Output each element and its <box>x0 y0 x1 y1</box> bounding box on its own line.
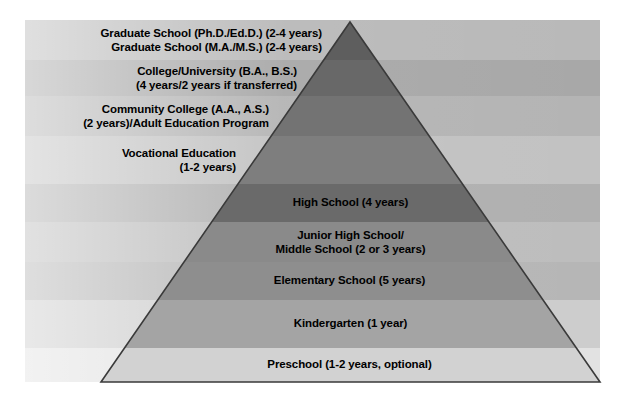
education-pyramid-diagram <box>0 0 627 401</box>
